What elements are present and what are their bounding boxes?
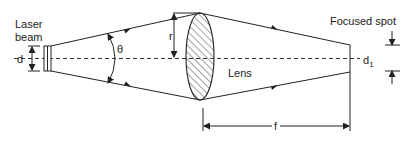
- lens-radius-label: r: [169, 30, 173, 42]
- ray-arrow-icon: [271, 85, 278, 90]
- spot-diameter-label: d1: [363, 54, 374, 69]
- converging-beam: [200, 13, 350, 100]
- spot-diameter-dimension: [385, 31, 400, 84]
- laser-beam-label-line2: beam: [15, 31, 43, 43]
- focal-length-label: f: [274, 120, 278, 132]
- divergence-angle-label: θ: [117, 43, 123, 55]
- beam-diameter-label: d: [17, 53, 23, 65]
- laser-focusing-diagram: Laser beam d θ r Lens Focused spot d1 f: [0, 0, 409, 141]
- laser-beam-label-line1: Laser: [15, 18, 43, 30]
- laser-source: [44, 46, 51, 71]
- ray-arrow-icon: [271, 25, 278, 30]
- diverging-beam: [51, 13, 200, 100]
- focused-spot-label: Focused spot: [330, 15, 396, 27]
- lens-label: Lens: [228, 67, 252, 79]
- lens: [186, 13, 214, 100]
